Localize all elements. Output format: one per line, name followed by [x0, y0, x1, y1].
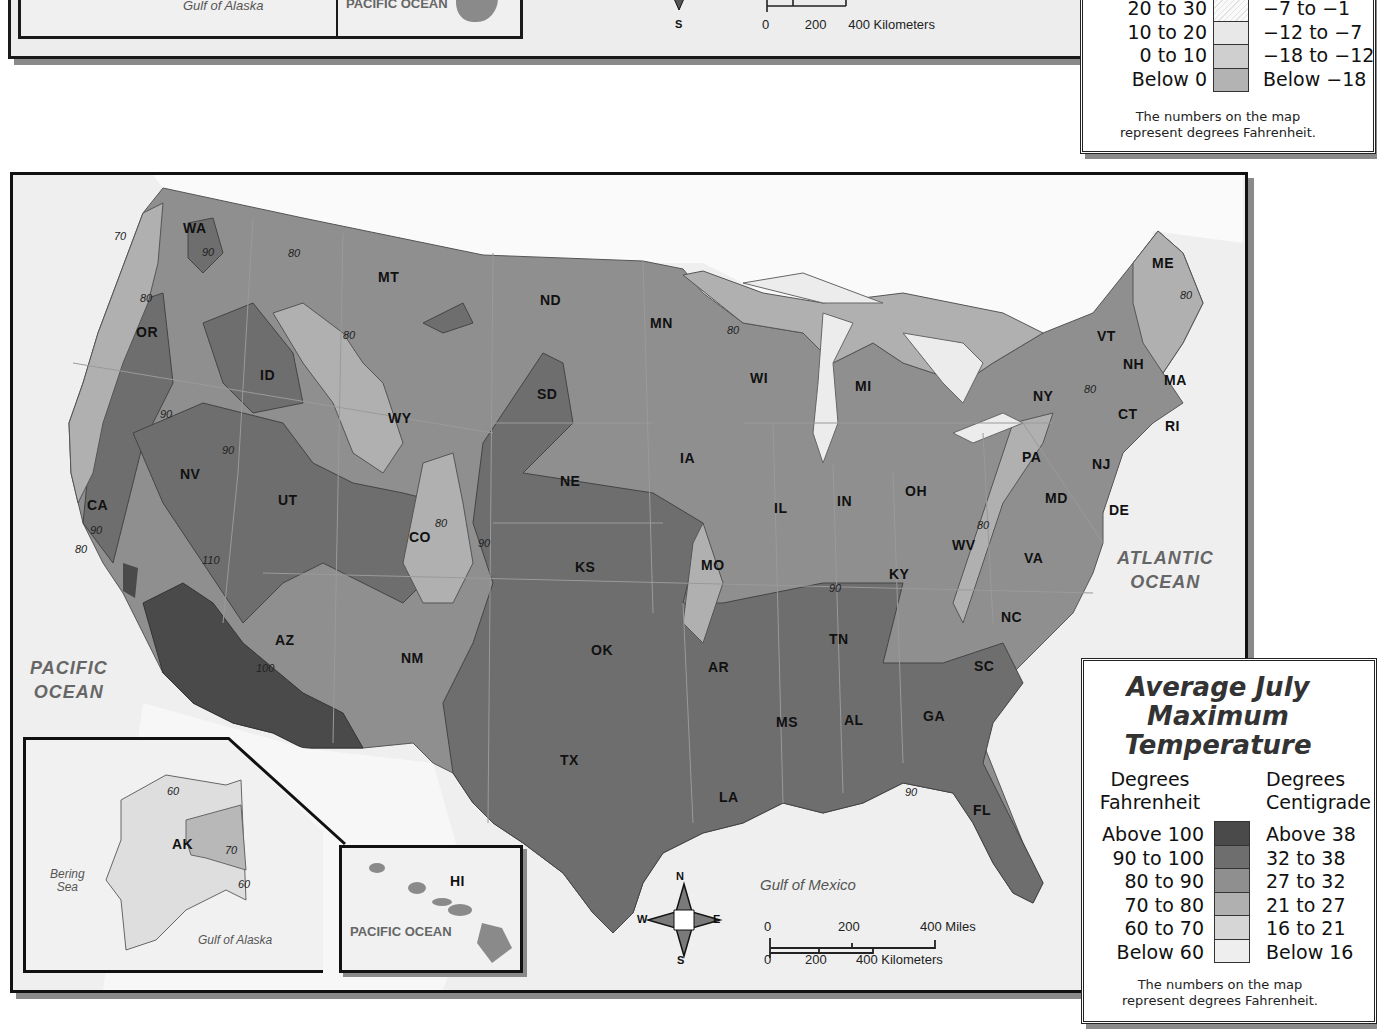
swatch-60-70 [1214, 915, 1250, 939]
hawaii-inset: HI PACIFIC OCEAN [339, 845, 523, 973]
temperature-legend: Average July Maximum Temperature Degrees… [1081, 658, 1377, 1024]
state-label-hi: HI [450, 873, 465, 889]
legend-centigrade-heading: Degrees Centigrade [1266, 768, 1371, 814]
swatch-above-100 [1214, 821, 1250, 845]
previous-alaska-inset: Gulf of Alaska [18, 0, 342, 39]
legend-note: The numbers on the map represent degrees… [1084, 977, 1356, 1009]
swatch-20-30 [1213, 0, 1249, 21]
previous-legend-swatches [1213, 0, 1249, 92]
swatch-0-10 [1213, 44, 1249, 68]
hawaii-islands-shape [342, 848, 520, 970]
gulf-of-mexico-label: Gulf of Mexico [760, 876, 856, 893]
swatch-80-90 [1214, 868, 1250, 892]
legend-swatches [1214, 821, 1250, 963]
pacific-ocean-label: PACIFIC OCEAN [346, 0, 448, 11]
previous-legend: 20 to 30 10 to 20 0 to 10 Below 0 −7 to … [1080, 0, 1376, 154]
compass-w: W [637, 913, 647, 925]
main-map-frame: 60 AK 70 60 Bering Sea Gulf of Alaska HI… [10, 172, 1248, 993]
pacific-ocean-hi-label: PACIFIC OCEAN [350, 924, 452, 939]
scale-miles-labels: 0 200 400 Miles [764, 919, 994, 934]
swatch-70-80 [1214, 892, 1250, 916]
legend-centigrade-values: Above 38 32 to 38 27 to 32 21 to 27 16 t… [1266, 823, 1356, 964]
legend-fahrenheit-values: Above 100 90 to 100 80 to 90 70 to 80 60… [1090, 823, 1204, 964]
scale-km-labels: 0 200 400 Kilometers [764, 952, 994, 967]
pacific-ocean-label: PACIFIC OCEAN [30, 656, 108, 704]
previous-legend-f-column: 20 to 30 10 to 20 0 to 10 Below 0 [1097, 0, 1207, 91]
swatch-90-100 [1214, 845, 1250, 869]
previous-compass-s: S [675, 18, 682, 30]
previous-compass-rose-icon [668, 0, 690, 16]
swatch-below-0 [1213, 68, 1249, 93]
compass-e: E [713, 913, 720, 925]
hawaii-island-shape [456, 0, 498, 22]
legend-title: Average July Maximum Temperature [1084, 673, 1352, 760]
compass-s: S [677, 954, 684, 966]
previous-scale-km-labels: 0 200 400 Kilometers [762, 17, 935, 32]
swatch-below-60 [1214, 939, 1250, 964]
previous-hawaii-inset: PACIFIC OCEAN [336, 0, 523, 39]
previous-legend-c-column: −7 to −1 −12 to −7 −18 to −12 Below −18 [1263, 0, 1374, 91]
atlantic-ocean-label: ATLANTIC OCEAN [1117, 546, 1214, 594]
compass-n: N [676, 870, 684, 882]
gulf-of-alaska-label: Gulf of Alaska [183, 0, 263, 13]
legend-fahrenheit-heading: Degrees Fahrenheit [1090, 768, 1210, 814]
alaska-inset-border [23, 737, 353, 977]
compass-rose-icon [648, 884, 720, 956]
previous-legend-note: The numbers on the map represent degrees… [1083, 109, 1353, 141]
previous-scale-bar [766, 0, 916, 14]
swatch-10-20 [1213, 21, 1249, 45]
